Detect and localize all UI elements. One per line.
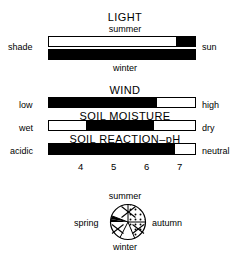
section-title-wind: WIND <box>0 85 250 96</box>
bar-soil-moisture <box>48 120 196 131</box>
label-neutral: neutral <box>202 147 230 156</box>
label-wet: wet <box>19 124 33 133</box>
wheel-label-summer: summer <box>0 192 250 201</box>
bar-light-winter <box>48 49 196 60</box>
label-acidic: acidic <box>10 147 33 156</box>
season-wheel <box>108 202 148 242</box>
season-wheel-svg <box>108 202 148 242</box>
bar-segment-fill <box>49 98 157 107</box>
bar-segment-fill <box>49 144 175 154</box>
wheel-label-spring: spring <box>74 219 99 228</box>
bar-segment-fill <box>49 50 195 59</box>
section-title-light: LIGHT <box>0 12 250 23</box>
bar-soil-reaction-ph <box>48 143 196 155</box>
wheel-label-autumn: autumn <box>152 219 182 228</box>
figure-root: LIGHT summer shade sun winter WIND low h… <box>0 0 250 257</box>
wheel-label-winter: winter <box>0 243 250 252</box>
label-shade: shade <box>8 43 33 52</box>
label-high: high <box>202 101 219 110</box>
label-low: low <box>19 101 33 110</box>
bar-wind <box>48 97 196 108</box>
ph-tick-5: 5 <box>111 162 116 172</box>
ph-tick-7: 7 <box>177 162 182 172</box>
bar-segment-fill <box>176 37 195 46</box>
label-dry: dry <box>202 124 215 133</box>
bar-light-summer <box>48 36 196 47</box>
caption-summer: summer <box>0 25 250 34</box>
ph-tick-4: 4 <box>78 162 83 172</box>
ph-tick-6: 6 <box>144 162 149 172</box>
label-sun: sun <box>202 43 217 52</box>
bar-segment-fill <box>86 121 155 130</box>
caption-winter: winter <box>0 64 250 73</box>
